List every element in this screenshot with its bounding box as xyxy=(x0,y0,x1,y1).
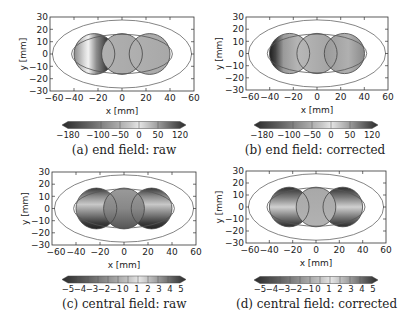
panel-a-end-field-raw: 30 20 10 0 −10 −20 −30 −60 −40 −20 0 20 … xyxy=(0,0,205,162)
svg-text:1: 1 xyxy=(326,284,331,294)
svg-text:40: 40 xyxy=(357,245,369,255)
svg-text:2: 2 xyxy=(145,284,150,294)
svg-text:30: 30 xyxy=(233,12,245,22)
svg-text:−10: −10 xyxy=(29,62,48,72)
svg-text:20: 20 xyxy=(334,245,346,255)
svg-text:40: 40 xyxy=(166,247,178,257)
svg-text:−60: −60 xyxy=(45,93,64,103)
y-tick-labels: 30 20 10 0 −10 −20 −30 xyxy=(29,12,48,96)
svg-text:40: 40 xyxy=(164,93,176,103)
y-axis-label: y [mm] xyxy=(18,38,28,71)
plot-area xyxy=(246,171,386,243)
svg-text:−2: −2 xyxy=(290,284,303,294)
svg-text:10: 10 xyxy=(39,192,51,202)
svg-text:20: 20 xyxy=(140,93,152,103)
svg-text:60: 60 xyxy=(380,245,392,255)
svg-text:0: 0 xyxy=(123,284,128,294)
colorbar xyxy=(62,122,186,129)
svg-text:−180: −180 xyxy=(250,130,273,140)
svg-text:−5: −5 xyxy=(62,284,75,294)
svg-text:60: 60 xyxy=(382,92,394,102)
svg-text:20: 20 xyxy=(37,25,49,35)
svg-text:−10: −10 xyxy=(225,214,244,224)
svg-text:30: 30 xyxy=(37,12,49,22)
svg-text:0: 0 xyxy=(121,247,127,257)
svg-text:0: 0 xyxy=(42,49,48,59)
svg-text:−10: −10 xyxy=(225,61,244,71)
svg-text:0: 0 xyxy=(238,49,244,59)
svg-text:5: 5 xyxy=(178,284,183,294)
colorbar-tick-labels: −5 −4 −3 −2 −1 0 1 2 3 4 5 xyxy=(62,284,184,294)
colorbar xyxy=(254,122,378,129)
svg-text:−3: −3 xyxy=(86,284,99,294)
y-axis-label: y [mm] xyxy=(214,191,224,224)
svg-text:−20: −20 xyxy=(89,93,108,103)
svg-text:−60: −60 xyxy=(47,247,66,257)
svg-text:−20: −20 xyxy=(225,226,244,236)
svg-text:−50: −50 xyxy=(303,130,321,140)
svg-text:−50: −50 xyxy=(111,130,129,140)
x-tick-labels: −60 −40 −20 0 20 40 60 xyxy=(241,245,392,255)
svg-text:4: 4 xyxy=(359,284,364,294)
colorbar xyxy=(254,277,378,284)
svg-text:20: 20 xyxy=(233,178,245,188)
svg-text:−100: −100 xyxy=(86,130,109,140)
svg-text:−40: −40 xyxy=(260,245,279,255)
panel-b-end-field-corrected: 30 20 10 0 −10 −20 −30 −60 −40 −20 0 20 … xyxy=(196,0,409,162)
svg-text:−1: −1 xyxy=(110,284,123,294)
x-axis-label: x [mm] xyxy=(108,260,141,270)
svg-text:−180: −180 xyxy=(56,130,79,140)
svg-text:20: 20 xyxy=(142,247,154,257)
svg-text:4: 4 xyxy=(167,284,172,294)
svg-text:−40: −40 xyxy=(65,93,84,103)
x-axis-label: x [mm] xyxy=(300,258,333,268)
x-tick-labels: −60 −40 −20 0 20 40 60 xyxy=(45,93,200,103)
svg-text:30: 30 xyxy=(233,166,245,176)
svg-text:−3: −3 xyxy=(278,284,291,294)
svg-text:−2: −2 xyxy=(98,284,111,294)
svg-text:0: 0 xyxy=(328,130,333,140)
svg-text:0: 0 xyxy=(238,202,244,212)
svg-text:50: 50 xyxy=(153,130,164,140)
y-tick-labels: 30 20 10 0 −10 −20 −30 xyxy=(225,166,244,248)
plot-area xyxy=(246,17,388,90)
svg-text:0: 0 xyxy=(314,92,320,102)
caption-c: (c) central field: raw xyxy=(62,297,186,311)
colorbar-tick-labels: −180 −100 −50 0 50 120 xyxy=(250,130,380,140)
svg-text:20: 20 xyxy=(233,24,245,34)
svg-text:−1: −1 xyxy=(302,284,315,294)
colorbar-tick-labels: −5 −4 −3 −2 −1 0 1 2 3 4 5 xyxy=(254,284,376,294)
svg-text:−20: −20 xyxy=(91,247,110,257)
x-tick-labels: −60 −40 −20 0 20 40 60 xyxy=(47,247,202,257)
y-axis-label: y [mm] xyxy=(214,37,224,70)
svg-text:0: 0 xyxy=(44,204,50,214)
colorbar xyxy=(62,276,186,283)
svg-text:−20: −20 xyxy=(225,73,244,83)
svg-text:−60: −60 xyxy=(241,92,260,102)
svg-text:−100: −100 xyxy=(277,130,300,140)
x-axis-label: x [mm] xyxy=(106,106,139,116)
plot-area xyxy=(52,172,196,245)
svg-text:0: 0 xyxy=(315,284,320,294)
svg-text:0: 0 xyxy=(136,130,141,140)
svg-text:−20: −20 xyxy=(283,245,302,255)
svg-text:−20: −20 xyxy=(29,74,48,84)
svg-text:0: 0 xyxy=(313,245,319,255)
svg-text:−4: −4 xyxy=(266,284,279,294)
svg-text:−20: −20 xyxy=(31,228,50,238)
svg-text:10: 10 xyxy=(233,37,245,47)
svg-text:30: 30 xyxy=(39,167,51,177)
svg-text:20: 20 xyxy=(39,179,51,189)
svg-text:5: 5 xyxy=(370,284,375,294)
svg-text:−20: −20 xyxy=(284,92,303,102)
svg-text:10: 10 xyxy=(37,37,49,47)
svg-text:−5: −5 xyxy=(254,284,267,294)
svg-text:3: 3 xyxy=(348,284,353,294)
svg-text:2: 2 xyxy=(337,284,342,294)
svg-text:40: 40 xyxy=(359,92,371,102)
svg-text:120: 120 xyxy=(364,130,380,140)
x-axis-label: x [mm] xyxy=(301,105,334,115)
svg-text:1: 1 xyxy=(134,284,139,294)
colorbar-tick-labels: −180 −100 −50 0 50 120 xyxy=(56,130,188,140)
y-tick-labels: 30 20 10 0 −10 −20 −30 xyxy=(31,167,50,250)
